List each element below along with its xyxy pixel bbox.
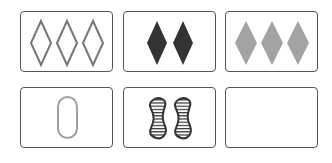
diamond-icon [124,12,215,71]
diamond-icon [226,12,317,71]
card-two-striped-squiggles[interactable] [123,87,216,148]
oval-icon [21,88,112,147]
diamond-icon [21,12,112,71]
squiggle-icon [124,88,215,147]
card-one-outline-oval[interactable] [20,87,113,148]
card-three-outline-diamonds[interactable] [20,11,113,72]
card-two-solid-diamonds[interactable] [123,11,216,72]
card-three-gray-diamonds[interactable] [225,11,318,72]
card-empty[interactable] [225,87,318,148]
